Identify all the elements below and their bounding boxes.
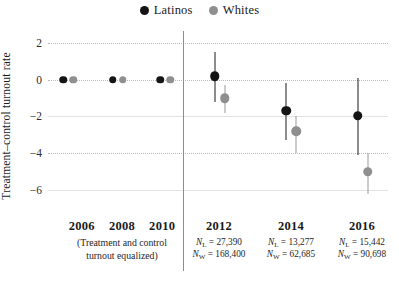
x-axis-n-2012: NL = 27,390 NW = 168,400 bbox=[193, 237, 246, 261]
y-tick-label-2: 2 bbox=[36, 37, 42, 49]
gridline--2 bbox=[48, 116, 388, 117]
n-value-white-2016: = 90,698 bbox=[353, 249, 386, 259]
legend-entry-whites: Whites bbox=[209, 4, 260, 17]
n-value-latino-2012: = 27,390 bbox=[209, 237, 242, 247]
gridline--4 bbox=[48, 153, 388, 154]
n-subscript-white-2016: W bbox=[344, 253, 351, 261]
gridline--6 bbox=[48, 190, 388, 191]
data-point-whites-2016[interactable] bbox=[363, 167, 373, 177]
x-axis-year-2012: 2012 bbox=[193, 219, 246, 234]
data-point-latinos-2006[interactable] bbox=[60, 76, 68, 84]
x-axis-n-latino-2012: NL = 27,390 bbox=[193, 237, 246, 249]
x-axis-year-2014: 2014 bbox=[267, 219, 315, 234]
n-value-white-2012: = 168,400 bbox=[208, 249, 246, 259]
y-axis-title: Treatment–control turnout rate bbox=[0, 36, 14, 216]
x-axis-n-white-2016: NW = 90,698 bbox=[338, 249, 386, 261]
data-point-latinos-2016[interactable] bbox=[353, 111, 363, 121]
x-axis-group-2016: 2016 NL = 15,442 NW = 90,698 bbox=[338, 219, 386, 261]
x-axis-group-2012: 2012 NL = 27,390 NW = 168,400 bbox=[193, 219, 246, 261]
data-point-latinos-2008[interactable] bbox=[109, 76, 117, 84]
n-value-latino-2014: = 13,277 bbox=[281, 237, 314, 247]
n-value-white-2014: = 62,685 bbox=[282, 249, 315, 259]
y-tick-label--6: −6 bbox=[30, 184, 42, 196]
data-point-whites-2012[interactable] bbox=[220, 93, 230, 103]
x-axis-equalized-note-line2: turnout equalized) bbox=[69, 250, 176, 263]
n-subscript-latino-2014: L bbox=[274, 241, 278, 249]
n-symbol-latino-2012: N bbox=[196, 237, 202, 247]
x-axis-equalized-note-line1: (Treatment and control bbox=[69, 237, 176, 250]
chart-legend: Latinos Whites bbox=[0, 4, 399, 17]
x-axis-n-white-2014: NW = 62,685 bbox=[267, 249, 315, 261]
plot-area: 20−2−4−6 bbox=[48, 32, 388, 212]
data-point-whites-2010[interactable] bbox=[167, 76, 175, 84]
y-tick-label--4: −4 bbox=[30, 147, 42, 159]
gridline-2 bbox=[48, 43, 388, 44]
data-point-latinos-2010[interactable] bbox=[157, 76, 165, 84]
x-axis-n-2016: NL = 15,442 NW = 90,698 bbox=[338, 237, 386, 261]
x-axis-n-latino-2014: NL = 13,277 bbox=[267, 237, 315, 249]
legend-label-latinos: Latinos bbox=[154, 4, 193, 17]
x-axis-year-2010: 2010 bbox=[149, 219, 175, 234]
period-divider bbox=[183, 31, 184, 271]
y-tick-label--2: −2 bbox=[30, 110, 42, 122]
data-point-whites-2008[interactable] bbox=[119, 76, 127, 84]
legend-swatch-latinos-icon bbox=[140, 6, 149, 15]
chart-figure: Latinos Whites Treatment–control turnout… bbox=[0, 0, 399, 281]
x-axis-n-white-2012: NW = 168,400 bbox=[193, 249, 246, 261]
data-point-latinos-2012[interactable] bbox=[210, 71, 220, 81]
x-axis-equalized-note: (Treatment and control turnout equalized… bbox=[69, 237, 176, 262]
data-point-whites-2014[interactable] bbox=[291, 126, 301, 136]
x-axis-year-2016: 2016 bbox=[338, 219, 386, 234]
x-axis-group-2014: 2014 NL = 13,277 NW = 62,685 bbox=[267, 219, 315, 261]
n-value-latino-2016: = 15,442 bbox=[352, 237, 385, 247]
x-axis-year-2008: 2008 bbox=[109, 219, 135, 234]
data-point-whites-2006[interactable] bbox=[70, 76, 78, 84]
n-subscript-white-2012: W bbox=[199, 253, 206, 261]
y-axis-title-text: Treatment–control turnout rate bbox=[0, 52, 12, 199]
legend-label-whites: Whites bbox=[223, 4, 260, 17]
legend-swatch-whites-icon bbox=[209, 6, 218, 15]
n-subscript-latino-2016: L bbox=[345, 241, 349, 249]
x-axis-year-2006: 2006 bbox=[69, 219, 95, 234]
x-axis-n-2014: NL = 13,277 NW = 62,685 bbox=[267, 237, 315, 261]
y-tick-label-0: 0 bbox=[36, 74, 42, 86]
x-axis-n-latino-2016: NL = 15,442 bbox=[338, 237, 386, 249]
x-axis-group-pre-period: 2006 2008 2010 (Treatment and control tu… bbox=[69, 219, 176, 262]
n-subscript-latino-2012: L bbox=[202, 241, 206, 249]
n-subscript-white-2014: W bbox=[273, 253, 280, 261]
legend-entry-latinos: Latinos bbox=[140, 4, 193, 17]
data-point-latinos-2014[interactable] bbox=[281, 106, 291, 116]
x-axis-pre-years: 2006 2008 2010 bbox=[69, 219, 176, 234]
